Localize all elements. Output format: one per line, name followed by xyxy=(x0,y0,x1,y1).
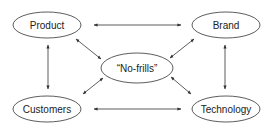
relationship-diagram: Product Brand “No-frills” Customers Tech… xyxy=(0,0,274,130)
node-label-product: Product xyxy=(30,20,65,31)
node-brand: Brand xyxy=(192,12,260,38)
edge-customers-nofrills xyxy=(83,78,103,94)
node-technology: Technology xyxy=(192,96,260,122)
node-product: Product xyxy=(13,12,81,38)
node-no-frills: “No-frills” xyxy=(101,53,173,83)
node-label-technology: Technology xyxy=(201,104,252,115)
edge-product-nofrills xyxy=(76,39,101,59)
node-label-brand: Brand xyxy=(213,20,240,31)
node-label-no-frills: “No-frills” xyxy=(117,63,158,74)
node-label-customers: Customers xyxy=(23,104,71,115)
edge-technology-nofrills xyxy=(171,77,191,94)
edge-brand-nofrills xyxy=(170,39,194,58)
node-customers: Customers xyxy=(13,96,81,122)
